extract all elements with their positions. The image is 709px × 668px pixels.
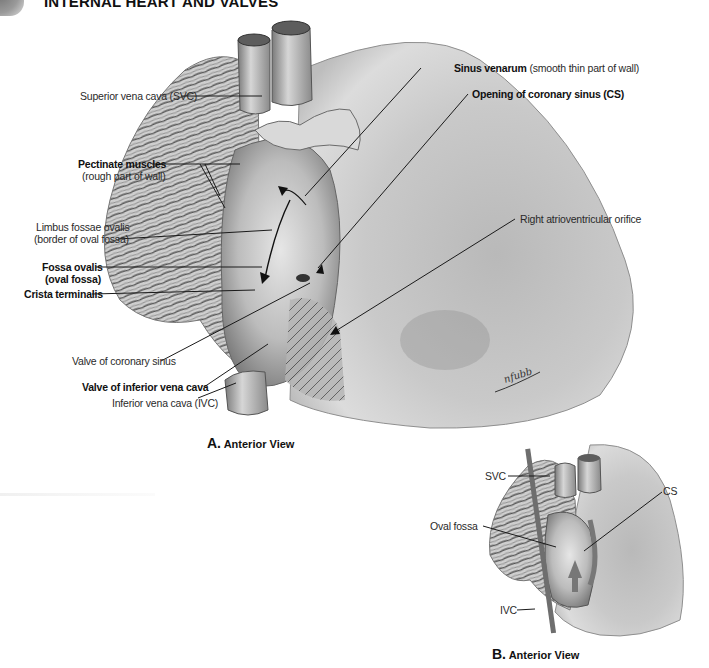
label-superior-vena-cava: Superior vena cava (SVC) (80, 90, 197, 102)
label-inferior-vena-cava: Inferior vena cava (IVC) (112, 397, 218, 409)
label-pectinate-muscles-sub: (rough part of wall) (82, 170, 166, 182)
figure-a-caption-text: Anterior View (224, 438, 295, 450)
figure-b-caption-letter: B. (492, 646, 506, 662)
label-b-ivc: IVC (500, 604, 517, 616)
label-pectinate-muscles: Pectinate muscles (78, 158, 166, 170)
figure-b-heart (489, 445, 683, 636)
label-fossa-ovalis: Fossa ovalis (42, 261, 103, 273)
label-b-oval-fossa: Oval fossa (430, 520, 478, 532)
figure-a-caption: A. Anterior View (207, 435, 294, 451)
label-right-av-orifice: Right atrioventricular orifice (520, 213, 641, 225)
label-fossa-ovalis-sub: (oval fossa) (45, 273, 101, 285)
label-b-svc: SVC (485, 470, 506, 482)
label-sinus-venarum: Sinus venarum (smooth thin part of wall) (454, 62, 639, 74)
label-b-cs: CS (663, 485, 677, 497)
label-limbus-sub: (border of oval fossa) (34, 233, 129, 245)
label-valve-coronary-sinus: Valve of coronary sinus (72, 355, 176, 367)
label-limbus-fossae-ovalis: Limbus fossae ovalis (36, 221, 129, 233)
label-opening-coronary-sinus: Opening of coronary sinus (CS) (472, 88, 624, 100)
figure-b-caption-text: Anterior View (509, 649, 580, 661)
figure-a-caption-letter: A. (207, 435, 221, 451)
figure-b-caption: B. Anterior View (492, 646, 579, 662)
label-valve-inferior-vena-cava: Valve of inferior vena cava (82, 381, 209, 393)
label-crista-terminalis: Crista terminalis (24, 288, 103, 300)
label-sinus-venarum-bold: Sinus venarum (454, 62, 527, 74)
label-sinus-venarum-sub: (smooth thin part of wall) (529, 62, 639, 74)
